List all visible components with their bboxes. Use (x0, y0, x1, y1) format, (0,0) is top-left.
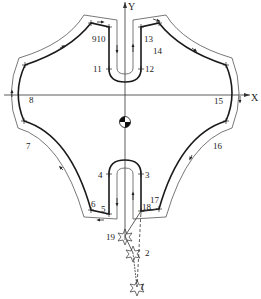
label-point-15: 15 (214, 96, 224, 106)
node-marker-icon (156, 206, 162, 212)
label-point-19: 19 (106, 232, 116, 242)
label-point-5: 5 (101, 204, 106, 214)
node-marker-icon (21, 118, 27, 124)
node-marker-icon (223, 118, 229, 124)
label-point-16: 16 (213, 141, 223, 151)
label-point-18: 18 (142, 202, 152, 212)
node-marker-icon (106, 211, 112, 217)
label-point-1: 1 (140, 282, 145, 292)
label-point-14: 14 (153, 46, 163, 56)
diagram-canvas: X Y (0, 0, 261, 299)
node-marker-icon (22, 62, 28, 68)
label-point-2: 2 (145, 248, 150, 258)
x-axis-label: X (251, 92, 259, 103)
toolpath-diagram: X Y (0, 0, 261, 299)
node-marker-icon (223, 62, 229, 68)
label-point-11: 11 (93, 64, 102, 74)
label-point-13: 13 (144, 34, 154, 44)
label-point-17: 17 (150, 195, 160, 205)
label-point-6: 6 (91, 199, 96, 209)
approach-path (125, 209, 159, 287)
node-marker-icon (138, 66, 144, 72)
node-marker-icon (138, 171, 144, 177)
label-point-4: 4 (98, 170, 103, 180)
label-point-8: 8 (29, 95, 34, 105)
workpiece-zero-icon (120, 117, 131, 128)
label-point-7: 7 (26, 141, 31, 151)
label-point-12: 12 (145, 64, 154, 74)
label-point-3: 3 (145, 170, 150, 180)
node-marker-icon (106, 66, 112, 72)
label-point-910: 910 (92, 34, 106, 44)
node-marker-icon (138, 24, 144, 30)
node-marker-icon (106, 24, 112, 30)
node-marker-icon (106, 171, 112, 177)
y-axis-label: Y (128, 1, 135, 12)
